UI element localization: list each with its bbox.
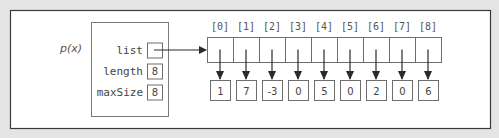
diagram-stage: p(x) listlength8maxSize8 [0]1[1]7[2]-3[3… (0, 0, 499, 138)
pointer-array-diagram: p(x) listlength8maxSize8 [0]1[1]7[2]-3[3… (0, 0, 499, 138)
field-name-label: length (103, 65, 143, 78)
value-text: 1 (217, 86, 223, 97)
field-name-label: list (117, 44, 144, 57)
array-index-label: [6] (367, 21, 385, 32)
value-text: 7 (243, 86, 249, 97)
value-text: 0 (399, 86, 405, 97)
value-text: -3 (268, 86, 278, 97)
field-value: 8 (152, 66, 158, 77)
value-text: 5 (321, 86, 327, 97)
array-index-label: [7] (393, 21, 411, 32)
array-index-label: [0] (211, 21, 229, 32)
variable-label: p(x) (59, 42, 82, 55)
array-index-label: [5] (341, 21, 359, 32)
array-index-label: [1] (237, 21, 255, 32)
struct-field-length: length8 (103, 64, 162, 79)
struct-field-maxsize: maxSize8 (97, 85, 163, 100)
value-text: 0 (347, 86, 353, 97)
array-index-label: [4] (315, 21, 333, 32)
value-text: 0 (295, 86, 301, 97)
value-text: 2 (373, 86, 379, 97)
array-index-label: [3] (289, 21, 307, 32)
field-value: 8 (152, 87, 158, 98)
field-name-label: maxSize (97, 86, 143, 99)
array-index-label: [2] (263, 21, 281, 32)
array-index-label: [8] (419, 21, 437, 32)
value-text: 6 (425, 86, 431, 97)
